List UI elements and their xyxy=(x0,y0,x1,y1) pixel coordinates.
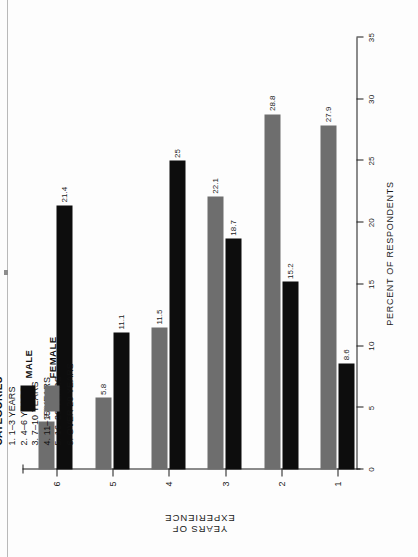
bar-value-label: 25 xyxy=(172,149,181,158)
bar-value-label: 11.5 xyxy=(154,309,163,324)
value-tick-label: 15 xyxy=(366,279,375,288)
bar-value-label: 11.1 xyxy=(116,314,125,329)
legend-label: MALE xyxy=(22,349,33,378)
bar-male-1 xyxy=(338,363,354,469)
category-tick-label: 1 xyxy=(332,481,342,495)
bar-male-4 xyxy=(169,160,185,469)
legend-key-male: MALE xyxy=(20,349,35,411)
value-tick xyxy=(356,98,363,99)
categories-heading: CATEGORIES xyxy=(0,363,3,445)
value-tick-label: 10 xyxy=(366,341,375,350)
value-tick-label: 20 xyxy=(366,218,375,227)
value-axis-title: PERCENT OF RESPONDENTS xyxy=(384,37,394,469)
bar-value-label: 18.7 xyxy=(229,220,238,236)
category-tick-label: 3 xyxy=(220,481,230,495)
value-tick xyxy=(356,345,363,346)
axis-top-cap xyxy=(22,464,23,473)
value-tick xyxy=(356,221,363,222)
value-tick xyxy=(356,36,363,37)
category-tick-label: 5 xyxy=(107,481,117,495)
chart-legend: CATEGORIES 1. 1–3 YEARS2. 4–6 YEARS3. 7–… xyxy=(0,363,75,445)
bar-value-label: 8.6 xyxy=(341,349,350,360)
legend-swatch-male xyxy=(20,385,35,411)
value-tick-label: 30 xyxy=(366,94,375,103)
category-definition-item: 1. 1–3 YEARS xyxy=(6,363,18,445)
bar-female-2 xyxy=(264,114,280,469)
bar-value-label: 27.9 xyxy=(323,106,332,122)
bar-female-4 xyxy=(151,327,167,469)
value-tick-label: 5 xyxy=(366,405,375,410)
chart-page: 05101520253035 123456 8.627.915.228.818.… xyxy=(0,0,418,557)
value-tick xyxy=(356,283,363,284)
legend-label: FEMALE xyxy=(46,336,57,378)
bar-male-2 xyxy=(282,281,298,469)
value-tick-label: 0 xyxy=(366,467,375,472)
legend-swatch-female xyxy=(44,385,59,411)
value-tick-label: 25 xyxy=(366,156,375,165)
bar-male-5 xyxy=(113,332,129,469)
bar-female-3 xyxy=(207,196,223,469)
legend-key-female: FEMALE xyxy=(44,336,59,411)
rotated-chart-wrapper: 05101520253035 123456 8.627.915.228.818.… xyxy=(0,0,418,557)
value-tick xyxy=(356,468,363,469)
category-tick-label: 4 xyxy=(163,481,173,495)
bar-value-label: 5.8 xyxy=(98,383,107,394)
value-tick xyxy=(356,406,363,407)
bar-female-5 xyxy=(95,397,111,469)
category-tick-label: 6 xyxy=(51,481,61,495)
bar-chart: 05101520253035 123456 8.627.915.228.818.… xyxy=(0,0,418,557)
bar-value-label: 15.2 xyxy=(285,263,294,279)
bar-female-1 xyxy=(320,125,336,469)
category-tick-label: 2 xyxy=(276,481,286,495)
category-definition-list: 1. 1–3 YEARS2. 4–6 YEARS3. 7–10 YEARS4. … xyxy=(6,363,75,445)
category-axis-title: YEARS OF EXPERIENCE xyxy=(139,512,259,534)
bar-value-label: 28.8 xyxy=(267,95,276,111)
bar-male-3 xyxy=(225,238,241,469)
bar-value-label: 22.1 xyxy=(211,178,220,194)
bars-layer: 8.627.915.228.818.722.12511.511.15.821.4… xyxy=(26,37,356,469)
bar-value-label: 21.4 xyxy=(60,186,69,202)
value-tick-label: 35 xyxy=(366,32,375,41)
value-tick xyxy=(356,159,363,160)
category-definition-item: 6. OVER 20 YEARS xyxy=(64,363,76,445)
